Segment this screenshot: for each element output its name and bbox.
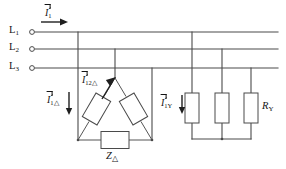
delta-phase-current-sub: 12△ xyxy=(85,79,97,86)
wye-neutral-node xyxy=(192,138,251,141)
circuit-diagram: L1 L2 L3 I1 I1△ I12△ Z△ I1Y RY xyxy=(0,0,286,169)
vector-hat-icon xyxy=(44,4,50,8)
supply-current-sub: 1 xyxy=(48,12,51,19)
bus-label-l2: L2 xyxy=(9,42,19,54)
delta-line-current-label: I1△ xyxy=(47,95,59,106)
supply-current-base: I xyxy=(45,7,48,18)
bus-label-l2-sub: 2 xyxy=(15,46,19,54)
bus-line-l2 xyxy=(30,47,278,52)
circuit-schematic-canvas xyxy=(0,0,286,169)
delta-element-right xyxy=(115,78,152,140)
wye-element-phase1 xyxy=(185,93,199,123)
delta-phase-current-symbol: I xyxy=(82,75,85,85)
wye-element-phase2 xyxy=(215,93,229,123)
vector-hat-icon xyxy=(81,71,87,75)
delta-line-current-base: I xyxy=(47,94,50,105)
bus-label-l3-sub: 3 xyxy=(15,65,19,73)
supply-current-arrow xyxy=(41,19,68,26)
delta-line-current-arrow xyxy=(66,92,72,115)
delta-phase-current-label: I12△ xyxy=(82,75,97,86)
wye-resistance-label: RY xyxy=(262,101,273,113)
supply-current-label: I1 xyxy=(45,8,52,19)
delta-element-bottom xyxy=(78,132,152,149)
wye-line-current-symbol: I xyxy=(161,98,164,108)
delta-impedance-label: Z△ xyxy=(106,151,118,163)
bus-label-l1-sub: 1 xyxy=(15,29,19,37)
bus-label-l1: L1 xyxy=(9,25,19,37)
wye-element-phase3 xyxy=(244,93,258,123)
bus-line-l1 xyxy=(30,30,278,35)
wye-line-current-label: I1Y xyxy=(161,98,172,109)
wye-line-current-base: I xyxy=(161,97,164,108)
wye-resistance-sub: Y xyxy=(268,105,273,113)
delta-impedance-sub: △ xyxy=(112,154,118,163)
delta-phase-current-base: I xyxy=(82,74,85,85)
vector-hat-icon xyxy=(46,91,52,95)
delta-phase-current-arrow xyxy=(102,77,116,99)
delta-line-current-sub: 1△ xyxy=(50,99,58,106)
supply-current-symbol: I xyxy=(45,8,48,18)
delta-line-current-symbol: I xyxy=(47,95,50,105)
bus-label-l3: L3 xyxy=(9,61,19,73)
wye-line-current-sub: 1Y xyxy=(164,102,172,109)
wye-line-current-arrow xyxy=(179,95,185,114)
vector-hat-icon xyxy=(160,94,166,98)
bus-line-l3 xyxy=(30,66,278,71)
